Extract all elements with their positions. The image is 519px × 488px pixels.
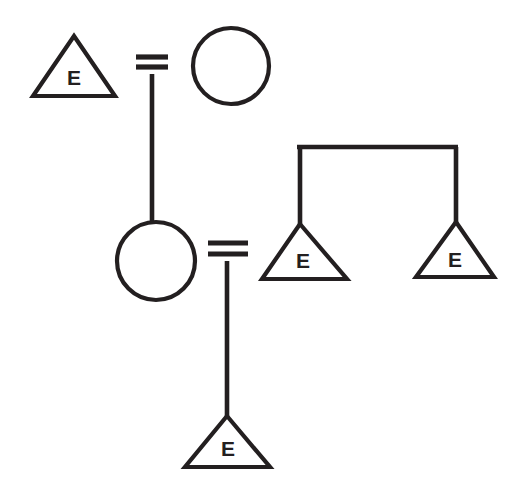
pedigree-diagram: E E E	[0, 0, 519, 488]
circle-icon	[193, 28, 269, 104]
node-n2-circle[interactable]	[193, 28, 269, 104]
node-n3-circle[interactable]	[117, 222, 195, 300]
node-n1-label: E	[67, 66, 81, 89]
node-n6-label: E	[221, 437, 235, 460]
pedigree-canvas: E E E	[0, 0, 519, 488]
node-n5-triangle[interactable]: E	[416, 222, 494, 277]
node-n4-triangle[interactable]: E	[262, 224, 347, 279]
union-u2[interactable]	[208, 243, 248, 419]
node-n5-label: E	[448, 248, 462, 271]
sibship-s1	[297, 147, 458, 226]
union-u1[interactable]	[136, 57, 168, 224]
node-n1-triangle[interactable]: E	[33, 36, 115, 96]
node-n4-label: E	[296, 249, 310, 272]
circle-icon	[117, 222, 195, 300]
node-n6-triangle[interactable]: E	[185, 416, 270, 467]
